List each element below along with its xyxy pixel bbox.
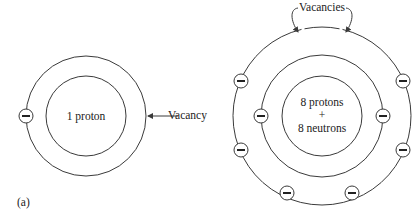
electron-icon: [345, 186, 359, 200]
electron-icon: [234, 74, 248, 88]
electron-icon: [19, 109, 33, 123]
panel-label: (a): [17, 196, 30, 209]
electron-icon: [234, 143, 248, 157]
electron-icon: [376, 109, 390, 123]
vacancy-arrow-right: [346, 8, 352, 32]
oxygen-nucleus-plus: +: [319, 109, 326, 122]
electron-icon: [396, 74, 410, 88]
hydrogen-nucleus-label: 1 proton: [67, 110, 106, 123]
electron-icon: [280, 186, 294, 200]
electron-icon: [254, 109, 268, 123]
oxygen-outer-shell-top: [305, 27, 340, 29]
electron-icon: [396, 143, 410, 157]
vacancy-label: Vacancy: [168, 109, 207, 122]
atom-diagram: [0, 0, 414, 219]
oxygen-nucleus-protons: 8 protons: [300, 96, 343, 109]
oxygen-nucleus-neutrons: 8 neutrons: [298, 122, 346, 135]
vacancies-label: Vacancies: [298, 1, 346, 14]
